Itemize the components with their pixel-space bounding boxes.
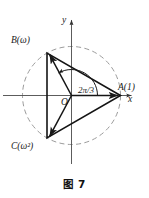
vertex-label-c-text: C(ω²) <box>11 141 33 151</box>
angle-label: 2π/3 <box>78 86 94 95</box>
vertex-label-a: A(1) <box>118 83 135 93</box>
complex-plane-diagram <box>0 0 149 198</box>
vertex-label-c: C(ω²) <box>11 142 33 152</box>
vertex-label-b: B(ω) <box>11 36 30 46</box>
y-axis-label: y <box>62 16 66 26</box>
origin-label: O <box>61 98 68 108</box>
figure-container: B(ω) C(ω²) A(1) x y O 2π/3 图 7 <box>0 0 149 198</box>
x-axis-label: x <box>128 95 132 105</box>
vertex-label-b-text: B(ω) <box>11 35 30 45</box>
vertex-label-a-text: A(1) <box>118 82 135 92</box>
figure-caption: 图 7 <box>0 176 149 191</box>
